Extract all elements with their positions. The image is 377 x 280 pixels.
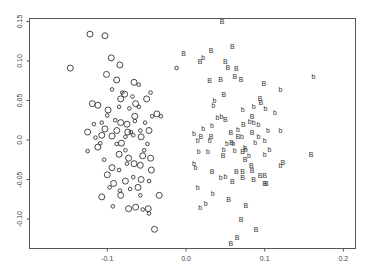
point-label-upper-b: B (254, 226, 259, 233)
point-label-lower-b: b (223, 173, 227, 180)
point-label-upper-b: B (250, 167, 255, 174)
point-label-upper-b: B (262, 80, 267, 87)
point-label-lower-b: b (208, 137, 212, 144)
point-label-lower-b: b (256, 121, 260, 128)
y-tick-label: -0.10 (16, 211, 23, 227)
point-label-upper-b: B (221, 152, 226, 159)
point-label-upper-b: B (209, 47, 214, 54)
point-label-lower-b: b (278, 86, 282, 93)
point-label-lower-b: b (252, 103, 256, 110)
point-label-upper-b: B (239, 216, 244, 223)
point-label-upper-b: B (229, 240, 234, 247)
point-label-upper-b: B (264, 180, 269, 187)
point-label-upper-b: B (239, 76, 244, 83)
point-label-lower-b: b (252, 119, 256, 126)
point-label-lower-b: b (206, 148, 210, 155)
point-label-lower-b: b (196, 184, 200, 191)
y-tick-label: -0.05 (16, 171, 23, 187)
point-label-lower-b: b (204, 200, 208, 207)
scatter-plot: BBBBBBBBBBBBBBBBBBBBBBBBBBBBBBBBBBBBBBBB… (0, 0, 377, 280)
point-label-lower-b: b (201, 125, 205, 132)
x-tick-label: -0.1 (101, 255, 113, 262)
point-label-upper-b: B (225, 64, 230, 71)
point-label-lower-b: b (273, 109, 277, 116)
point-label-lower-b: b (240, 133, 244, 140)
point-label-lower-b: b (193, 164, 197, 171)
point-label-lower-b: b (263, 137, 267, 144)
point-label-lower-b: b (264, 105, 268, 112)
point-label-upper-b: B (207, 77, 212, 84)
point-label-lower-b: b (236, 126, 240, 133)
point-label-lower-b: b (198, 204, 202, 211)
point-label-upper-b: B (262, 172, 267, 179)
point-label-upper-b: B (223, 116, 228, 123)
point-label-lower-b: b (278, 127, 282, 134)
y-tick-label: 0.0 (16, 135, 23, 145)
point-label-upper-b: B (251, 176, 256, 183)
point-label-lower-b: b (243, 144, 247, 151)
point-label-upper-b: B (309, 151, 314, 158)
x-tick-label: 0.0 (181, 255, 191, 262)
point-label-upper-b: B (218, 76, 223, 83)
chart-background (0, 0, 377, 280)
point-label-upper-b: B (241, 121, 246, 128)
point-label-lower-b: b (241, 106, 245, 113)
point-label-upper-b: B (226, 196, 231, 203)
point-label-lower-b: b (266, 127, 270, 134)
point-label-lower-b: b (231, 140, 235, 147)
point-label-lower-b: b (263, 151, 267, 158)
point-label-lower-b: b (253, 139, 257, 146)
point-label-lower-b: b (267, 146, 271, 153)
x-tick-label: 0.1 (260, 255, 270, 262)
point-label-lower-b: b (256, 133, 260, 140)
point-label-lower-b: b (196, 137, 200, 144)
point-label-upper-b: B (181, 50, 186, 57)
point-label-upper-b: B (240, 174, 245, 181)
point-label-upper-b: B (221, 91, 226, 98)
point-label-upper-b: B (234, 65, 239, 72)
y-tick-label: 0.10 (16, 54, 23, 68)
point-label-upper-b: B (230, 178, 235, 185)
point-label-upper-b: B (220, 18, 225, 25)
point-label-upper-b: B (250, 129, 255, 136)
point-label-lower-b: b (212, 102, 216, 109)
y-tick-label: 0.15 (16, 15, 23, 29)
point-label-upper-b: B (210, 168, 215, 175)
point-label-lower-b: b (219, 113, 223, 120)
point-label-lower-b: b (210, 122, 214, 129)
point-label-upper-b: B (258, 95, 263, 102)
point-label-upper-b: B (235, 234, 240, 241)
point-label-upper-b: B (232, 73, 237, 80)
point-label-upper-b: B (243, 202, 248, 209)
x-tick-label: 0.2 (339, 255, 349, 262)
point-label-lower-b: b (278, 162, 282, 169)
y-tick-label: 0.05 (16, 94, 23, 108)
point-label-upper-b: B (229, 129, 234, 136)
point-label-lower-b: b (247, 152, 251, 159)
point-label-lower-b: b (233, 147, 237, 154)
point-label-lower-b: b (211, 190, 215, 197)
point-label-lower-b: b (222, 146, 226, 153)
point-label-lower-b: b (312, 73, 316, 80)
point-label-lower-b: b (201, 54, 205, 61)
point-label-upper-b: B (230, 43, 235, 50)
point-label-lower-b: b (197, 148, 201, 155)
point-label-upper-b: B (234, 168, 239, 175)
point-label-lower-b: b (219, 174, 223, 181)
